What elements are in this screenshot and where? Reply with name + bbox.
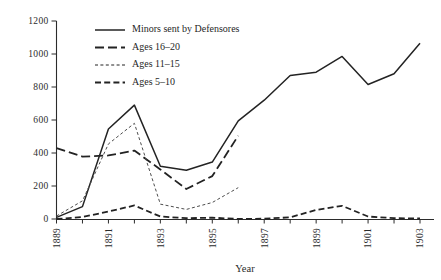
x-tick-label: 1893	[156, 228, 166, 248]
chart-legend: Minors sent by DefensoresAges 16–20Ages …	[95, 23, 240, 87]
series-line-0	[57, 43, 421, 217]
y-axis: 020040060080010001200	[28, 16, 56, 224]
y-tick-label: 200	[33, 181, 48, 191]
chart-figure: 020040060080010001200 188918911893189518…	[0, 0, 441, 280]
x-axis: 18891891189318951897189919011903 Year	[52, 219, 434, 274]
y-tick-label: 1200	[28, 16, 48, 26]
y-tick-label: 0	[43, 214, 48, 224]
y-tick-label: 1000	[28, 49, 48, 59]
y-tick-group: 020040060080010001200	[28, 16, 56, 224]
legend-label-1: Ages 16–20	[132, 41, 180, 52]
x-tick-label: 1889	[52, 228, 62, 248]
x-tick-label: 1903	[415, 228, 425, 248]
x-tick-label: 1897	[260, 228, 270, 248]
x-tick-label: 1899	[312, 228, 322, 248]
x-tick-group: 18891891189318951897189919011903	[52, 219, 426, 248]
legend-label-2: Ages 11–15	[132, 58, 180, 69]
legend-label-0: Minors sent by Defensores	[132, 23, 240, 34]
x-tick-label: 1895	[208, 228, 218, 248]
legend-label-3: Ages 5–10	[132, 76, 175, 87]
y-tick-label: 400	[33, 148, 48, 158]
x-axis-title: Year	[235, 263, 255, 274]
x-tick-label: 1901	[363, 228, 373, 248]
y-tick-label: 800	[33, 82, 48, 92]
series-group	[57, 43, 421, 219]
chart-svg: 020040060080010001200 188918911893189518…	[0, 0, 441, 280]
x-tick-label: 1891	[104, 228, 114, 248]
series-line-3	[57, 205, 421, 219]
y-tick-label: 600	[33, 115, 48, 125]
